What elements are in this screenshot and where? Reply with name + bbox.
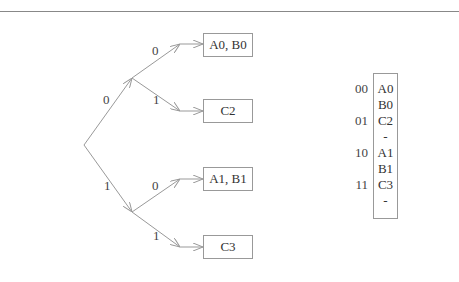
table-entry: -: [374, 129, 397, 144]
table-entry: C2: [374, 113, 397, 128]
table-entry: B1: [374, 161, 397, 176]
edge-label-n0-1: 1: [153, 92, 160, 108]
edge-label-n1-1: 1: [153, 228, 160, 244]
table-entry: A0: [374, 81, 397, 96]
leaf-box-c3: C3: [203, 235, 253, 259]
table-entry: A1: [374, 145, 397, 160]
table-entry: B0: [374, 97, 397, 112]
edge-label-n0-0: 0: [152, 43, 159, 59]
edge-label-root-0: 0: [103, 92, 110, 108]
leaf-box-a0-b0: A0, B0: [203, 33, 253, 57]
edge-label-root-1: 1: [104, 178, 111, 194]
table-entry: C3: [374, 177, 397, 192]
table-entry: -: [374, 193, 397, 208]
code-01: 01: [344, 113, 368, 128]
leaf-box-c2: C2: [203, 99, 253, 123]
leaf-box-a1-b1: A1, B1: [203, 167, 253, 191]
hash-table: A0 B0 C2 - A1 B1 C3 -: [373, 73, 398, 219]
code-00: 00: [344, 81, 368, 96]
code-11: 11: [344, 177, 368, 192]
code-10: 10: [344, 145, 368, 160]
edge-label-n1-0: 0: [152, 178, 159, 194]
